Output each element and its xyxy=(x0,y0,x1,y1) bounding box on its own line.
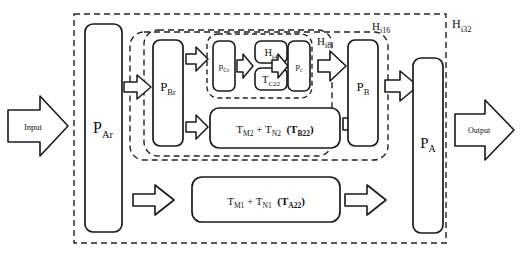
output-label: Output xyxy=(468,126,491,135)
arrow-pc-to-pb xyxy=(318,51,346,81)
block-row-b22 xyxy=(210,108,340,148)
group-hi8-label: Hi8 xyxy=(317,35,331,50)
block-row-a22 xyxy=(192,177,340,222)
arrow-pcr-to-hi4 xyxy=(237,54,253,78)
arrow-pbr-to-row-b22 xyxy=(186,115,208,139)
input-label: Input xyxy=(24,122,43,132)
diagram-canvas: Hi32 Hi16 Hi8 Input PAr PBr pCr Hi4 xyxy=(0,0,522,255)
group-hi16-label: Hi16 xyxy=(372,20,390,35)
group-hi32-label: Hi32 xyxy=(452,17,472,34)
arrow-par-to-row-a22 xyxy=(133,185,174,215)
arrow-row-a22-to-pa xyxy=(345,185,386,215)
arrow-pbr-to-pcr xyxy=(186,47,208,71)
arrow-par-to-pbr xyxy=(124,75,151,99)
